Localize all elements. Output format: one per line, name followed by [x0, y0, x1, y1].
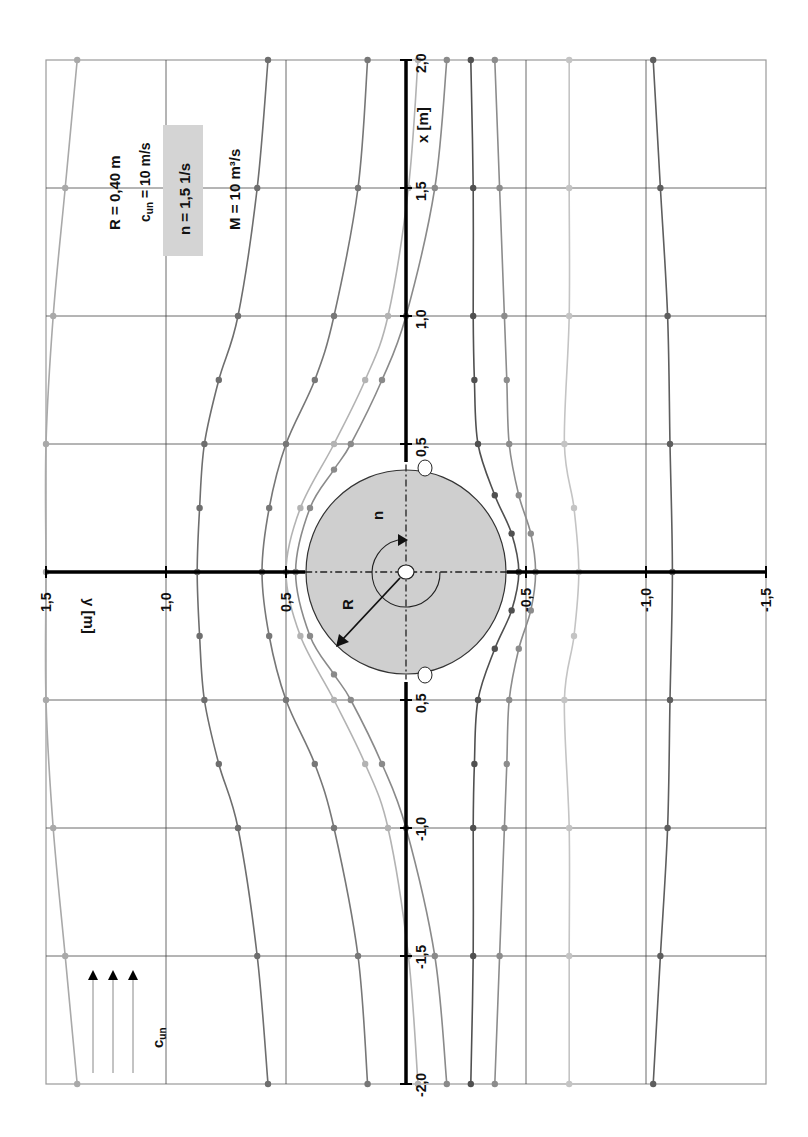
- streamline-point: [355, 953, 361, 959]
- streamline-point: [196, 633, 202, 639]
- streamline-point: [650, 1081, 656, 1087]
- streamline-point: [667, 697, 673, 703]
- streamline-point: [566, 57, 572, 63]
- streamline-point: [566, 1081, 572, 1087]
- streamline-point: [364, 57, 370, 63]
- streamline-point: [664, 313, 670, 319]
- streamline-point: [266, 505, 272, 511]
- streamline-point: [566, 953, 572, 959]
- streamline-point: [379, 761, 385, 767]
- streamline-point: [297, 505, 303, 511]
- streamline-point: [444, 57, 450, 63]
- center-point: [398, 565, 414, 579]
- streamline-point: [571, 633, 577, 639]
- streamline-point: [283, 441, 289, 447]
- y-tick-label: 0,5: [278, 592, 294, 612]
- streamline-point: [379, 377, 385, 383]
- flow-velocity-label: cun: [149, 1027, 168, 1048]
- streamline-point: [362, 377, 368, 383]
- streamline-point: [468, 1081, 474, 1087]
- streamline-point: [492, 1081, 498, 1087]
- streamline-point: [657, 953, 663, 959]
- streamline-point: [657, 185, 663, 191]
- streamline-point: [566, 313, 572, 319]
- streamline-point: [496, 185, 502, 191]
- streamline-point: [307, 505, 313, 511]
- streamline-point: [561, 697, 567, 703]
- streamline-point: [432, 953, 438, 959]
- streamline-point: [348, 441, 354, 447]
- streamline-point: [571, 505, 577, 511]
- streamline-point: [470, 185, 476, 191]
- streamline-point: [475, 697, 481, 703]
- streamline-point: [385, 825, 391, 831]
- x-tick-label: -2,0: [413, 1073, 429, 1097]
- y-tick-label: 1,0: [158, 592, 174, 612]
- streamline-point: [561, 441, 567, 447]
- streamline-point: [475, 441, 481, 447]
- streamline-point: [331, 671, 337, 677]
- streamline-point: [265, 1081, 271, 1087]
- radius-label: R: [339, 599, 356, 610]
- streamline-point: [506, 441, 512, 447]
- streamline-point: [471, 761, 477, 767]
- streamline-point: [235, 825, 241, 831]
- streamline-point: [307, 633, 313, 639]
- streamline-point: [492, 646, 498, 652]
- x-tick-label: -1,0: [413, 817, 429, 841]
- streamline-point: [504, 377, 510, 383]
- streamline-point: [331, 697, 337, 703]
- streamline-point: [254, 185, 260, 191]
- rotation-annotation: n = 1,5 1/s: [176, 163, 193, 235]
- streamline-point: [501, 313, 507, 319]
- streamline-point: [43, 697, 49, 703]
- streamline-point: [216, 761, 222, 767]
- streamline-point: [50, 825, 56, 831]
- x-tick-label: 1,0: [413, 309, 429, 329]
- streamline-point: [664, 825, 670, 831]
- streamline-point: [364, 1081, 370, 1087]
- streamline-point: [470, 953, 476, 959]
- streamline-point: [62, 953, 68, 959]
- streamline-point: [468, 57, 474, 63]
- y-axis-label: y [m]: [81, 598, 98, 634]
- y-tick-label: -1,0: [638, 588, 654, 612]
- streamline-point: [516, 646, 522, 652]
- flow-arrow-icon: [128, 970, 138, 980]
- streamline-point: [528, 530, 534, 536]
- streamline-point: [312, 761, 318, 767]
- streamline-point: [667, 441, 673, 447]
- streamline-point: [348, 697, 354, 703]
- cylinder: nR: [305, 460, 507, 683]
- streamline-point: [470, 825, 476, 831]
- streamline-point: [312, 377, 318, 383]
- x-tick-label: 1,5: [413, 181, 429, 201]
- streamline-point: [216, 377, 222, 383]
- streamline-point: [566, 825, 572, 831]
- streamline-point: [74, 57, 80, 63]
- streamline-point: [492, 492, 498, 498]
- stagnation-point-lower: [418, 667, 432, 683]
- streamline-point: [331, 466, 337, 472]
- streamline-point: [506, 697, 512, 703]
- streamline-point: [355, 185, 361, 191]
- x-axis-label: x [m]: [414, 107, 431, 143]
- streamline-point: [201, 697, 207, 703]
- streamline-point: [50, 313, 56, 319]
- streamline-point: [331, 313, 337, 319]
- y-tick-label: 1,5: [38, 592, 54, 612]
- source-annotation: M = 10 m³/s: [226, 149, 243, 230]
- streamline-point: [470, 313, 476, 319]
- velocity-annotation: cun = 10 m/s: [137, 142, 155, 222]
- radius-annotation: R = 0,40 m: [106, 155, 123, 230]
- streamline-point: [43, 441, 49, 447]
- streamline-point: [297, 633, 303, 639]
- y-tick-label: -0,5: [518, 588, 534, 612]
- streamline-point: [266, 633, 272, 639]
- streamline-point: [501, 825, 507, 831]
- flow-arrow-icon: [108, 970, 118, 980]
- y-tick-label: -1,5: [758, 588, 774, 612]
- streamline-point: [471, 377, 477, 383]
- streamline-point: [444, 1081, 450, 1087]
- streamline-point: [362, 761, 368, 767]
